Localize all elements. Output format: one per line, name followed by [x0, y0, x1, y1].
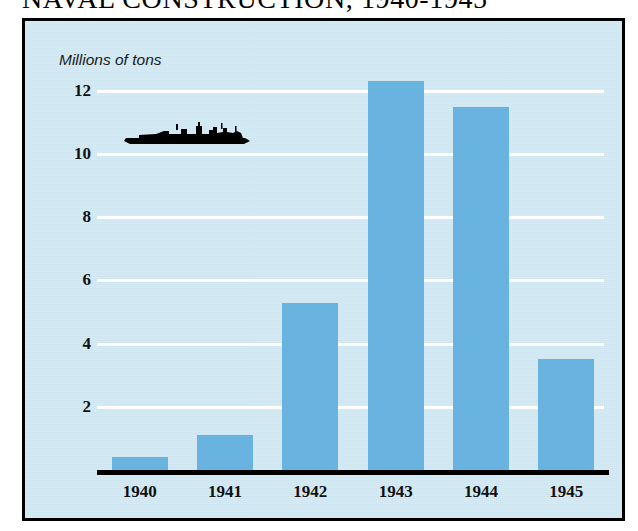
battleship-silhouette-icon: [121, 121, 251, 147]
gridline: [97, 216, 604, 219]
gridline: [97, 343, 604, 346]
x-axis-tick-label: 1944: [438, 482, 523, 502]
chart-frame: Millions of tons 24681012194019411942194…: [22, 18, 625, 521]
chart-page: NAVAL CONSTRUCTION, 1940-1945 Millions o…: [0, 0, 638, 531]
plot-area: 24681012194019411942194319441945: [61, 41, 604, 497]
bar: [368, 81, 424, 470]
gridline: [97, 406, 604, 409]
y-axis-tick-label: 2: [61, 397, 91, 417]
x-axis-tick-label: 1940: [97, 482, 182, 502]
y-axis-tick-label: 4: [61, 334, 91, 354]
title-clip: NAVAL CONSTRUCTION, 1940-1945: [0, 0, 638, 18]
bar: [197, 435, 253, 470]
x-axis-tick-label: 1942: [268, 482, 353, 502]
gridline: [97, 90, 604, 93]
x-axis-tick-label: 1943: [353, 482, 438, 502]
y-axis-tick-label: 10: [61, 144, 91, 164]
x-axis-line: [97, 470, 609, 475]
bar: [282, 303, 338, 470]
y-axis-tick-label: 12: [61, 81, 91, 101]
x-axis-tick-label: 1945: [524, 482, 609, 502]
page-title: NAVAL CONSTRUCTION, 1940-1945: [22, 0, 488, 15]
y-axis-tick-label: 8: [61, 207, 91, 227]
bar: [453, 107, 509, 470]
x-axis-tick-label: 1941: [182, 482, 267, 502]
bar: [112, 457, 168, 470]
gridline: [97, 153, 604, 156]
bar: [538, 359, 594, 470]
y-axis-tick-label: 6: [61, 270, 91, 290]
gridline: [97, 279, 604, 282]
